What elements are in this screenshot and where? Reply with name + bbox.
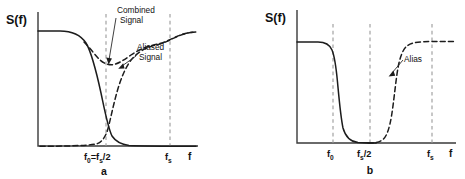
panel-a-x-axis-variable: f — [188, 151, 192, 162]
signal-aliasing-figure: Combined Signal Aliased Signal S(f) f0=f… — [0, 0, 465, 179]
annotation-alias-label: Alias — [404, 54, 422, 64]
annotation-combined-signal-line1: Combined — [117, 5, 155, 15]
panel-b-tick-fs2: fs/2 — [357, 149, 371, 161]
panel-b-tick-f0: f0 — [327, 149, 334, 161]
figure-container: Combined Signal Aliased Signal S(f) f0=f… — [0, 0, 465, 179]
panel-a-label: a — [101, 165, 107, 177]
panel-a-tick-fs: fs — [165, 152, 172, 164]
annotation-combined-signal-leader — [109, 18, 116, 60]
panel-a: Combined Signal Aliased Signal S(f) f0=f… — [6, 5, 198, 177]
panel-b-tick-fs: fs — [427, 149, 434, 161]
annotation-aliased-signal-arrow — [118, 63, 124, 69]
svg-text:fs: fs — [165, 152, 172, 164]
svg-text:fs/2: fs/2 — [357, 149, 371, 161]
panel-b-label: b — [367, 164, 373, 176]
panel-b-curve-signal — [297, 42, 376, 143]
panel-b-y-axis-title: S(f) — [265, 11, 286, 25]
svg-text:fs: fs — [427, 149, 434, 161]
panel-a-annotation-aliased-signal: Aliased Signal — [118, 42, 164, 69]
svg-text:f0=fs/2: f0=fs/2 — [84, 152, 111, 164]
annotation-combined-signal-line2: Signal — [120, 15, 143, 25]
panel-a-tick-f0: f0=fs/2 — [84, 152, 111, 164]
annotation-combined-signal-arrow — [106, 58, 112, 65]
panel-a-curve-original-signal — [38, 31, 196, 146]
tick-fs-sub: s — [168, 157, 172, 164]
panel-a-y-axis-title: S(f) — [6, 13, 27, 27]
panel-a-curve-aliased-signal — [40, 32, 196, 146]
panel-b-axes — [297, 10, 456, 143]
panel-b-annotation-alias: Alias — [389, 54, 422, 77]
annotation-aliased-signal-line1: Aliased — [137, 42, 165, 52]
svg-text:f0: f0 — [327, 149, 334, 161]
panel-b-x-axis-variable: f — [449, 148, 453, 159]
panel-b: Alias S(f) f0 fs/2 fs — [265, 10, 456, 176]
annotation-alias-arrow — [389, 71, 396, 77]
annotation-aliased-signal-leader — [122, 56, 136, 66]
annotation-aliased-signal-line2: Signal — [139, 52, 162, 62]
panel-a-axes — [38, 12, 198, 146]
tick-f0-tail2: /2 — [103, 152, 111, 162]
